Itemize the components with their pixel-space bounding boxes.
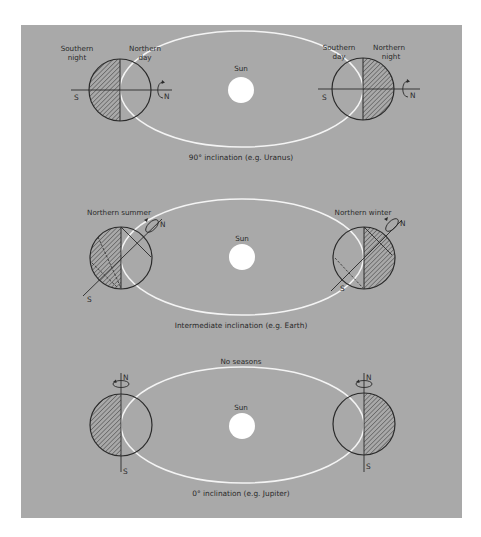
pole-s-label: S (123, 467, 128, 476)
label-northern-day-2: day (138, 53, 152, 62)
label-northern-day-1: Northern (129, 44, 161, 53)
pole-n-label: N (123, 373, 129, 382)
top-label: No seasons (220, 357, 261, 366)
sun-disc (229, 244, 255, 270)
label-northern-winter: Northern winter (335, 208, 392, 217)
sun-label: Sun (234, 403, 248, 412)
label-northern-night-2: night (382, 52, 401, 61)
pole-n-label: N (410, 91, 416, 100)
seasons-inclination-diagram: Sun 90° inclination (e.g. Uranus) N S So… (0, 0, 481, 537)
label-northern-summer: Northern summer (87, 208, 151, 217)
sun-disc (228, 77, 254, 103)
pole-n-label: N (160, 220, 166, 229)
panel-caption: Intermediate inclination (e.g. Earth) (175, 321, 308, 330)
pole-n-label: N (366, 373, 372, 382)
label-southern-night-2: night (68, 53, 87, 62)
sun-label: Sun (234, 64, 248, 73)
pole-s-label: S (87, 295, 92, 304)
label-southern-day-1: Southern (323, 43, 356, 52)
label-northern-night-1: Northern (373, 43, 405, 52)
label-southern-night-1: Southern (61, 44, 94, 53)
pole-s-label: S (366, 462, 371, 471)
panel-caption: 90° inclination (e.g. Uranus) (189, 153, 293, 162)
sun-label: Sun (235, 234, 249, 243)
pole-s-label: S (340, 284, 345, 293)
pole-s-label: S (322, 93, 327, 102)
pole-n-label: N (164, 92, 170, 101)
label-southern-day-2: day (332, 52, 346, 61)
sun-disc (229, 413, 255, 439)
panel-caption: 0° inclination (e.g. Jupiter) (192, 489, 290, 498)
pole-s-label: S (74, 93, 79, 102)
pole-n-label: N (400, 219, 406, 228)
